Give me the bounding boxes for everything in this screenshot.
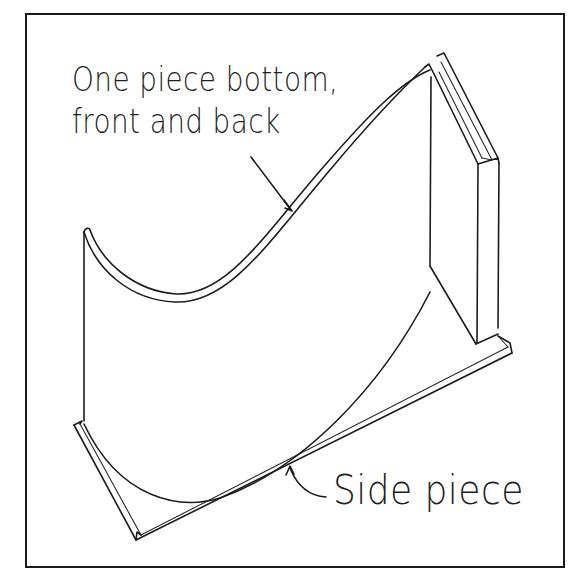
side-upright (437, 53, 499, 344)
diagram-canvas: One piece bottom, front and back Side pi… (0, 0, 582, 588)
front-panel (84, 232, 430, 502)
label-one-piece: One piece bottom, front and back (72, 58, 338, 142)
label-one-piece-line1: One piece bottom, (72, 58, 338, 100)
label-one-piece-line2: front and back (72, 100, 338, 142)
label-side-piece: Side piece (333, 468, 524, 512)
callout-arrow-side (286, 466, 326, 497)
callout-arrow-top (251, 157, 292, 211)
